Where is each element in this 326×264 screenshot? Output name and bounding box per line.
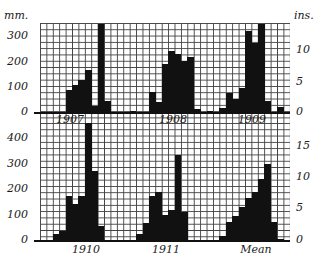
bottom-zero-line bbox=[34, 240, 290, 242]
bottom-chart-panel bbox=[40, 123, 290, 241]
unit-left-mm: mm. bbox=[4, 9, 28, 22]
tick-top-0: 0 bbox=[0, 106, 28, 117]
tick-bottom-0: 0 bbox=[0, 234, 28, 245]
tick-bottom-right-0: 0 bbox=[296, 234, 303, 245]
label-1911: 1911 bbox=[136, 243, 196, 256]
label-1910: 1910 bbox=[56, 243, 116, 256]
label-mean: Mean bbox=[226, 243, 286, 256]
unit-right-inches: ins. bbox=[294, 9, 314, 22]
tick-bottom-right-15: 15 bbox=[296, 140, 310, 151]
bar-mean-nov bbox=[271, 222, 278, 240]
label-1908: 1908 bbox=[143, 113, 203, 126]
tick-top-200: 200 bbox=[0, 56, 28, 67]
bar-1908-dec bbox=[194, 109, 201, 112]
bar-mean-dec bbox=[277, 239, 284, 240]
bar-1909-sep bbox=[258, 24, 265, 112]
tick-bottom-right-5: 5 bbox=[296, 202, 303, 213]
tick-bottom-400: 400 bbox=[0, 132, 28, 143]
tick-bottom-100: 100 bbox=[0, 209, 28, 220]
bar-1909-dec bbox=[277, 107, 284, 112]
bar-1910-oct bbox=[98, 226, 105, 240]
tick-top-300: 300 bbox=[0, 30, 28, 41]
bar-1907-nov bbox=[104, 101, 111, 112]
label-1907: 1907 bbox=[40, 113, 100, 126]
tick-top-100: 100 bbox=[0, 81, 28, 92]
bar-1911-oct bbox=[181, 212, 188, 240]
bar-1908-feb bbox=[130, 111, 137, 112]
tick-top-right-10: 10 bbox=[296, 44, 310, 55]
bar-1908-nov bbox=[187, 57, 194, 112]
top-chart-panel bbox=[40, 23, 290, 123]
tick-bottom-300: 300 bbox=[0, 158, 28, 169]
tick-top-right-5: 5 bbox=[296, 76, 303, 87]
bar-1907-oct bbox=[98, 24, 105, 112]
tick-bottom-right-10: 10 bbox=[296, 171, 310, 182]
label-1909: 1909 bbox=[222, 113, 282, 126]
tick-top-right-0: 0 bbox=[296, 106, 303, 117]
bar-1909-jan bbox=[207, 111, 214, 112]
bar-1909-oct bbox=[264, 101, 271, 112]
tick-bottom-200: 200 bbox=[0, 183, 28, 194]
